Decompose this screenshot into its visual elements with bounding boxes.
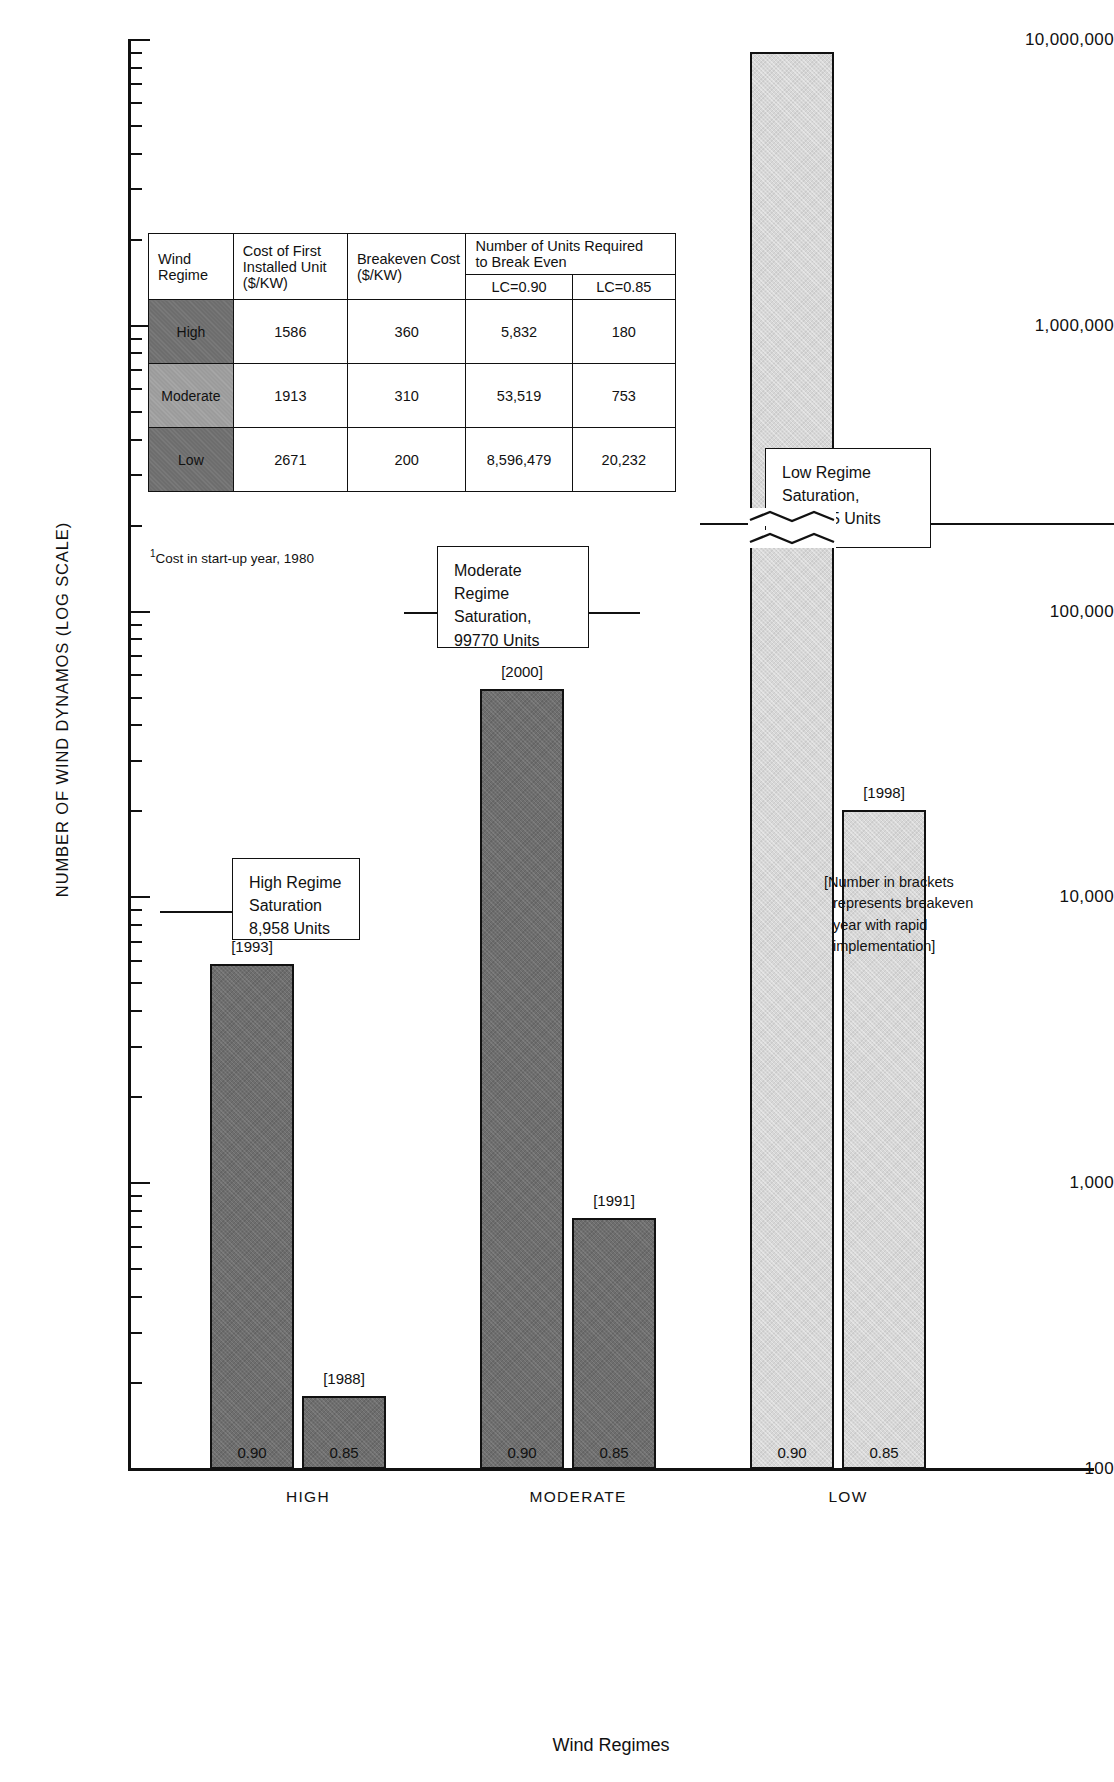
y-tick-minor: [128, 810, 142, 812]
y-tick-minor: [128, 352, 142, 354]
y-tick-label: 1,000,000: [996, 316, 1114, 336]
y-tick-minor: [128, 439, 142, 441]
y-tick-minor: [128, 125, 142, 127]
y-tick-major: [128, 611, 150, 613]
bar-year-moderate-lc085: [1991]: [554, 1192, 674, 1209]
y-tick-minor: [128, 188, 142, 190]
bar-year-high-lc085: [1988]: [284, 1370, 404, 1387]
table-cell-cost-first-moderate: 1913: [233, 364, 347, 428]
callout-moderate-line2: Saturation,: [454, 605, 574, 628]
bar-year-low-lc085: [1998]: [824, 784, 944, 801]
table-header-regime-line2: Regime: [158, 267, 228, 283]
bar-moderate-lc090[interactable]: 0.90: [480, 689, 564, 1469]
bar-high-lc090[interactable]: 0.90: [210, 964, 294, 1469]
table-cell-lc090-high: 5,832: [466, 300, 572, 364]
y-tick-minor: [128, 1226, 142, 1228]
y-tick-minor: [128, 239, 142, 241]
table-header-row-1: Wind Regime Cost of First Installed Unit…: [149, 234, 676, 275]
y-tick-minor: [128, 388, 142, 390]
y-tick-minor: [128, 638, 142, 640]
table-row: Low 2671 200 8,596,479 20,232: [149, 428, 676, 492]
callout-moderate-line3: 99770 Units: [454, 629, 574, 652]
table-cell-breakeven-high: 360: [347, 300, 466, 364]
table-header-lc090: LC=0.90: [466, 275, 572, 300]
callout-high-line3: 8,958 Units: [249, 917, 345, 940]
y-tick-minor: [128, 1382, 142, 1384]
bar-low-lc090-upper-segment[interactable]: [750, 52, 834, 516]
callout-moderate-saturation: Moderate Regime Saturation, 99770 Units: [437, 546, 589, 648]
table-cell-regime-low: Low: [149, 428, 234, 492]
y-tick-minor: [128, 52, 142, 54]
y-tick-major: [128, 39, 150, 41]
table-header-breakeven-line2: ($/KW): [357, 267, 461, 283]
y-tick-minor: [128, 1268, 142, 1270]
bar-value-low-lc085: 0.85: [844, 1444, 924, 1461]
leader-line-low-saturation-right: [931, 523, 1114, 525]
y-tick-minor: [128, 724, 142, 726]
table-header-regime-line1: Wind: [158, 251, 228, 267]
y-tick-minor: [128, 369, 142, 371]
table-cell-breakeven-low: 200: [347, 428, 466, 492]
y-tick-minor: [128, 1195, 142, 1197]
y-tick-minor: [128, 83, 142, 85]
table-cell-breakeven-moderate: 310: [347, 364, 466, 428]
data-table: Wind Regime Cost of First Installed Unit…: [148, 233, 676, 492]
table-cell-cost-first-low: 2671: [233, 428, 347, 492]
x-axis-label: Wind Regimes: [128, 1735, 1094, 1756]
axis-break-marker: [748, 508, 836, 526]
table-header-cost-first: Cost of First Installed Unit ($/KW): [233, 234, 347, 300]
x-category-low: LOW: [718, 1488, 978, 1506]
leader-line-moderate-saturation-left: [404, 612, 437, 614]
y-tick-label: 100: [996, 1459, 1114, 1479]
y-tick-minor: [128, 67, 142, 69]
table-row: Moderate 1913 310 53,519 753: [149, 364, 676, 428]
callout-low-line2: Saturation,: [782, 484, 916, 507]
bar-high-lc085[interactable]: 0.85: [302, 1396, 386, 1469]
table-cell-regime-moderate: Moderate: [149, 364, 234, 428]
y-tick-minor: [128, 338, 142, 340]
bar-year-high-lc090: [1993]: [192, 938, 312, 955]
bar-value-moderate-lc090: 0.90: [482, 1444, 562, 1461]
y-tick-label: 10,000,000: [996, 30, 1114, 50]
bracket-note-line4: implementation]: [824, 936, 1024, 957]
y-tick-minor: [128, 982, 142, 984]
bar-moderate-lc085[interactable]: 0.85: [572, 1218, 656, 1469]
bar-value-high-lc085: 0.85: [304, 1444, 384, 1461]
bar-value-low-lc090: 0.90: [752, 1444, 832, 1461]
y-tick-minor: [128, 411, 142, 413]
bracket-note: [Number in brackets represents breakeven…: [824, 872, 1024, 958]
callout-moderate-line1: Moderate Regime: [454, 559, 574, 605]
bar-low-lc090-lower-segment[interactable]: 0.90: [750, 538, 834, 1469]
y-tick-minor: [128, 1296, 142, 1298]
bar-value-moderate-lc085: 0.85: [574, 1444, 654, 1461]
y-tick-minor: [128, 960, 142, 962]
y-tick-minor: [128, 1246, 142, 1248]
table-cell-lc085-moderate: 753: [572, 364, 675, 428]
y-tick-major: [128, 1182, 150, 1184]
y-tick-minor: [128, 153, 142, 155]
table-cell-lc085-high: 180: [572, 300, 675, 364]
table-row: High 1586 360 5,832 180: [149, 300, 676, 364]
callout-low-line1: Low Regime: [782, 461, 916, 484]
leader-line-high-saturation: [160, 911, 232, 913]
y-tick-label: 1,000: [996, 1173, 1114, 1193]
x-category-high: HIGH: [178, 1488, 438, 1506]
y-tick-minor: [128, 941, 142, 943]
y-tick-minor: [128, 655, 142, 657]
y-tick-minor: [128, 674, 142, 676]
y-tick-major: [128, 1468, 150, 1470]
table-header-lc085: LC=0.85: [572, 275, 675, 300]
callout-high-line2: Saturation: [249, 894, 345, 917]
y-tick-minor: [128, 1046, 142, 1048]
y-axis-label: NUMBER OF WIND DYNAMOS (LOG SCALE): [53, 480, 72, 940]
y-tick-minor: [128, 1010, 142, 1012]
y-tick-minor: [128, 1210, 142, 1212]
y-tick-minor: [128, 760, 142, 762]
table-footnote-text: Cost in start-up year, 1980: [156, 551, 314, 566]
callout-high-line1: High Regime: [249, 871, 345, 894]
table-header-cost-first-line1: Cost of First: [243, 243, 342, 259]
table-cell-lc090-low: 8,596,479: [466, 428, 572, 492]
y-tick-minor: [128, 624, 142, 626]
table-header-regime: Wind Regime: [149, 234, 234, 300]
bracket-note-line3: year with rapid: [824, 915, 1024, 936]
